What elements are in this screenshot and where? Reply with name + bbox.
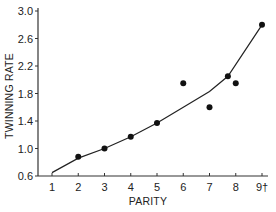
- data-point: [259, 22, 265, 28]
- x-tick-label: 4: [128, 181, 134, 193]
- data-point: [207, 104, 213, 110]
- data-point: [180, 80, 186, 86]
- x-tick-label: 9†: [256, 181, 268, 193]
- x-tick-label: 2: [75, 181, 81, 193]
- data-point: [154, 120, 160, 126]
- x-tick-label: 3: [101, 181, 107, 193]
- data-point: [128, 134, 134, 140]
- y-tick-label: 1.0: [18, 143, 33, 155]
- data-point: [225, 73, 231, 79]
- x-axis-title: PARITY: [129, 195, 167, 207]
- x-tick-label: 7: [206, 181, 212, 193]
- data-point: [233, 80, 239, 86]
- y-tick-label: 0.6: [18, 170, 33, 182]
- x-tick-label: 1: [49, 181, 55, 193]
- x-tick-label: 6: [180, 181, 186, 193]
- y-axis-title: TWINNING RATE: [3, 53, 15, 139]
- x-tick-label: 5: [154, 181, 160, 193]
- y-tick-label: 1.4: [18, 115, 33, 127]
- x-tick-label: 8: [233, 181, 239, 193]
- y-tick-label: 2.6: [18, 33, 33, 45]
- data-point: [75, 154, 81, 160]
- y-tick-label: 2.2: [18, 60, 33, 72]
- y-tick-label: 3.0: [18, 5, 33, 17]
- data-point: [102, 146, 108, 152]
- fitted-line: [52, 25, 262, 173]
- data-points: [75, 22, 265, 160]
- chart: 0.61.01.41.82.22.63.0 123456789† TWINNIN…: [0, 0, 276, 212]
- axes: [38, 8, 268, 176]
- y-tick-label: 1.8: [18, 88, 33, 100]
- y-ticks: 0.61.01.41.82.22.63.0: [18, 5, 38, 182]
